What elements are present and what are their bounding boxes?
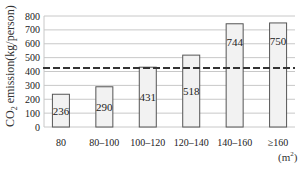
- y-tick-label: 800: [25, 11, 40, 22]
- unit-text: (m: [278, 151, 290, 163]
- bar-chart: 0100200300400500600700800 23629043151874…: [0, 0, 307, 174]
- bar-value-label: 744: [226, 36, 243, 48]
- unit-text-suffix: ): [294, 151, 298, 163]
- bar-value-label: 750: [270, 35, 287, 47]
- y-tick-label: 500: [25, 52, 40, 63]
- x-tick-label: 80–100: [89, 137, 119, 148]
- x-axis-unit: (m2): [278, 150, 297, 163]
- x-tick-label: 100–120: [130, 137, 165, 148]
- bar-value-label: 236: [53, 105, 70, 117]
- y-tick-label: 0: [35, 122, 40, 133]
- x-tick-label: 80: [56, 137, 66, 148]
- x-axis-ticks: 8080–100100–120120–140140–160≥160: [56, 137, 288, 148]
- y-tick-label: 200: [25, 94, 40, 105]
- bars: 236290431518744750: [52, 23, 286, 127]
- y-tick-label: 100: [25, 108, 40, 119]
- y-axis-ticks: 0100200300400500600700800: [25, 11, 40, 133]
- y-tick-label: 700: [25, 24, 40, 35]
- y-tick-label: 400: [25, 66, 40, 77]
- x-tick-label: ≥160: [268, 137, 289, 148]
- bar-value-label: 290: [96, 101, 113, 113]
- bar-value-label: 431: [140, 91, 157, 103]
- y-tick-label: 300: [25, 80, 40, 91]
- x-tick-label: 120–140: [174, 137, 209, 148]
- bar-value-label: 518: [183, 85, 200, 97]
- x-tick-label: 140–160: [217, 137, 252, 148]
- gridlines: [44, 16, 295, 127]
- y-tick-label: 600: [25, 38, 40, 49]
